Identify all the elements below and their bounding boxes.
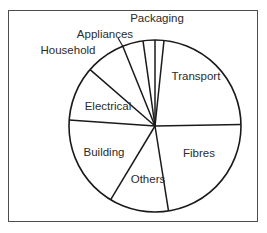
slice-label-transport: Transport	[172, 70, 222, 82]
divider-packaging-transport	[155, 41, 164, 127]
slice-label-building: Building	[84, 146, 125, 158]
divider-fibres-others	[155, 126, 169, 211]
divider-transport-fibres	[155, 125, 241, 127]
slice-label-packaging: Packaging	[130, 12, 184, 24]
divider-electrical-household	[90, 70, 155, 126]
slice-label-fibres: Fibres	[183, 147, 215, 159]
figure-canvas: Transport Fibres Others Building Electri…	[0, 0, 267, 233]
divider-household-appliances	[123, 46, 155, 126]
divider-others-building	[111, 126, 155, 200]
slice-label-electrical: Electrical	[85, 100, 132, 112]
slice-label-appliances: Appliances	[77, 28, 134, 40]
divider-building-electrical	[69, 120, 155, 126]
slice-label-others: Others	[131, 173, 166, 185]
pie-chart: Transport Fibres Others Building Electri…	[0, 0, 267, 233]
divider-appliances-packaging	[143, 41, 155, 126]
slice-label-household: Household	[41, 44, 96, 56]
